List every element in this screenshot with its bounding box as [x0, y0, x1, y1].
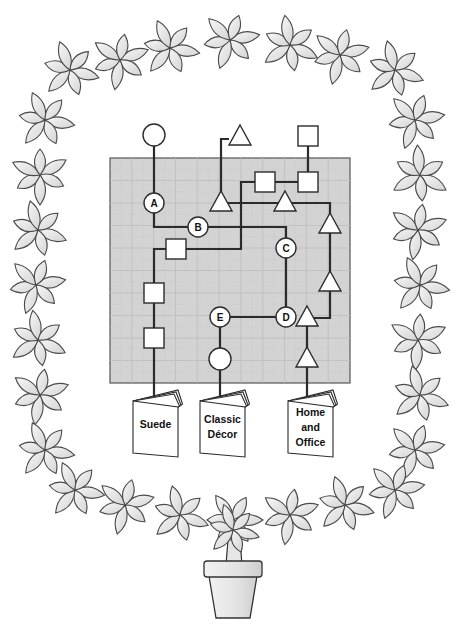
book-title-line: and	[301, 421, 320, 433]
square-symbol	[298, 172, 318, 192]
leaf-icon	[49, 70, 70, 91]
node-label: D	[282, 312, 289, 323]
puzzle-diagram: ABCDE SuedeClassicDécorHomeandOffice	[0, 0, 464, 631]
pot-body	[209, 576, 257, 618]
leaf-icon	[209, 19, 230, 40]
circle-symbol	[209, 348, 231, 370]
leaf-icon	[180, 498, 200, 515]
book-title-line: Home	[296, 406, 325, 418]
leaf-icon	[125, 505, 145, 522]
book-title-line: Décor	[208, 428, 238, 440]
square-symbol	[255, 172, 275, 192]
leaf-icon	[38, 213, 58, 230]
flower-pot	[204, 540, 262, 618]
book-suede: Suede	[133, 390, 183, 457]
book-home-and-office: HomeandOffice	[288, 390, 338, 457]
square-symbol	[166, 239, 186, 259]
node-label: E	[217, 312, 224, 323]
catalog-books: SuedeClassicDécorHomeandOffice	[133, 390, 338, 457]
leaf-icon	[102, 486, 125, 505]
leaf-icon	[317, 36, 340, 55]
node-label: B	[194, 222, 201, 233]
node-d: D	[276, 307, 296, 327]
pot-rim	[204, 561, 262, 577]
leaf-icon	[395, 53, 415, 70]
leaf-icon	[15, 230, 38, 249]
leaf-icon	[345, 487, 363, 505]
circle-symbol	[143, 124, 165, 146]
node-b: B	[188, 217, 208, 237]
leaf-icon	[397, 395, 420, 414]
book-title-line: Suede	[140, 418, 172, 430]
leaf-icon	[372, 70, 395, 89]
node-a: A	[144, 193, 164, 213]
leaf-icon	[394, 99, 415, 120]
leaf-icon	[394, 429, 415, 450]
square-symbol	[144, 283, 164, 303]
leaf-icon	[157, 515, 180, 534]
node-e: E	[210, 307, 230, 327]
leaf-icon	[420, 378, 440, 395]
book-classic-d-cor: ClassicDécor	[200, 390, 250, 457]
node-label: C	[282, 243, 289, 254]
node-c: C	[276, 238, 296, 258]
triangle-symbol	[229, 125, 251, 145]
square-symbol	[144, 328, 164, 348]
book-title-line: Classic	[204, 413, 241, 425]
leaf-icon	[374, 469, 395, 490]
book-title-line: Office	[296, 436, 326, 448]
leaf-icon	[340, 55, 360, 72]
leaf-icon	[15, 264, 36, 285]
square-symbol	[298, 126, 318, 146]
leaf-icon	[70, 52, 88, 70]
node-label: A	[150, 198, 157, 209]
leaf-icon	[324, 505, 345, 526]
